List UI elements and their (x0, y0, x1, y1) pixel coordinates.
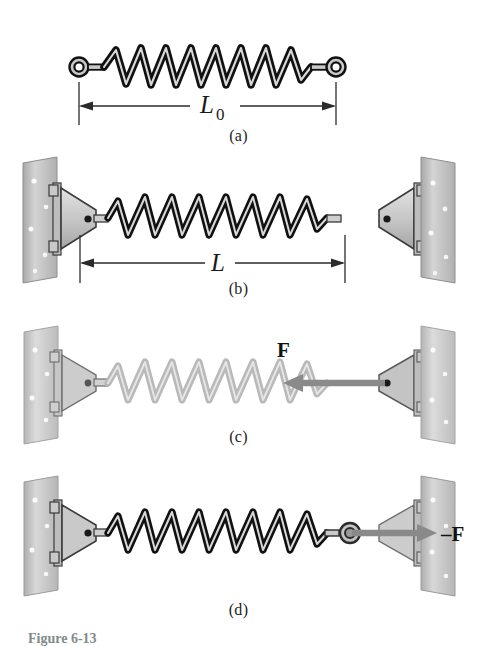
eyelet-right-icon (311, 58, 346, 77)
panel-d-reaction-force: –F (0, 460, 477, 600)
panel-d-diagram: –F (0, 460, 477, 600)
spring-force-figure: L 0 (a) (0, 0, 477, 647)
wall-left (24, 326, 58, 444)
panel-label-a: (a) (0, 127, 477, 145)
bracket-right (327, 183, 426, 255)
dimension-l0-subscript: 0 (216, 105, 225, 124)
bracket-left (49, 183, 108, 255)
bracket-left (50, 500, 108, 566)
spring-coil (104, 48, 311, 85)
spring-coil (108, 512, 327, 550)
dimension-l-label: L (210, 249, 225, 276)
dimension-l: L (80, 235, 345, 283)
wall-left (23, 157, 57, 283)
wall-left (24, 476, 58, 596)
panel-label-c: (c) (0, 428, 477, 446)
spring-coil (108, 197, 327, 235)
bracket-right (379, 350, 426, 416)
wall-right (421, 326, 455, 444)
dimension-l0: L 0 (79, 82, 336, 125)
eyelet-left-icon (70, 58, 105, 77)
wall-right (421, 157, 455, 283)
figure-caption: Figure 6-13 (28, 629, 328, 647)
force-label-minus-f: –F (440, 522, 464, 546)
dimension-l0-label: L (199, 91, 214, 118)
panel-label-d: (d) (0, 601, 477, 619)
force-label-f: F (277, 338, 290, 362)
panel-label-b: (b) (0, 280, 477, 298)
bracket-left (50, 350, 108, 416)
force-arrow-f (283, 374, 385, 392)
